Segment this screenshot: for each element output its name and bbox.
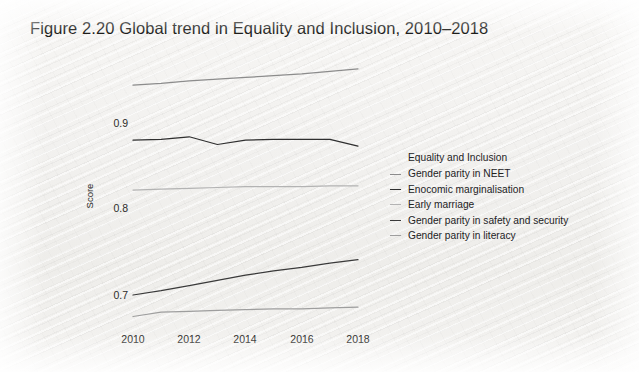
legend-item[interactable]: Enocomic marginalisation <box>390 182 568 197</box>
y-axis-title: Score <box>84 184 95 209</box>
legend-swatch-icon <box>390 189 401 190</box>
y-tick-label: 0.9 <box>113 117 128 129</box>
legend-item[interactable]: Early marriage <box>390 197 568 212</box>
legend-item-label: Gender parity in safety and security <box>408 213 568 228</box>
y-tick-label: 0.7 <box>113 289 128 301</box>
x-tick-label: 2018 <box>346 333 370 345</box>
x-axis-tick-labels: 2010 2012 2014 2016 2018 <box>121 333 370 345</box>
series-line <box>133 69 358 85</box>
legend-item[interactable]: Gender parity in literacy <box>390 228 568 243</box>
legend-item-label: Early marriage <box>408 197 474 212</box>
x-tick-label: 2014 <box>233 333 257 345</box>
series-line <box>133 137 358 146</box>
legend-swatch-icon <box>390 204 401 205</box>
x-tick-label: 2016 <box>290 333 314 345</box>
legend-item-label: Gender parity in NEET <box>408 166 510 181</box>
series-lines <box>133 69 358 317</box>
legend-item[interactable]: Gender parity in safety and security <box>390 213 568 228</box>
legend-swatch-icon <box>390 220 401 221</box>
x-tick-label: 2012 <box>177 333 201 345</box>
legend-item[interactable]: Gender parity in NEET <box>390 166 568 181</box>
legend-swatch-icon <box>390 235 401 236</box>
legend-item-label: Gender parity in literacy <box>408 228 516 243</box>
legend-item-label: Enocomic marginalisation <box>408 182 524 197</box>
x-tick-label: 2010 <box>121 333 145 345</box>
chart-legend: Equality and Inclusion Gender parity in … <box>390 150 568 243</box>
legend-title: Equality and Inclusion <box>408 150 568 165</box>
series-line <box>133 260 358 295</box>
y-axis-tick-labels: 0.9 0.8 0.7 <box>113 117 128 301</box>
series-line <box>133 186 358 190</box>
legend-swatch-icon <box>390 174 401 175</box>
series-line <box>133 307 358 316</box>
y-tick-label: 0.8 <box>113 202 128 214</box>
svg-text:Score: Score <box>84 184 95 209</box>
